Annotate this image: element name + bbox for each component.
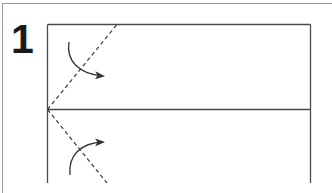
lower-fold-arrow-icon bbox=[70, 142, 103, 175]
folding-diagram bbox=[0, 0, 324, 183]
lower-diagonal-fold bbox=[48, 110, 108, 184]
upper-diagonal-fold bbox=[48, 25, 118, 110]
paper-outline bbox=[48, 25, 311, 184]
